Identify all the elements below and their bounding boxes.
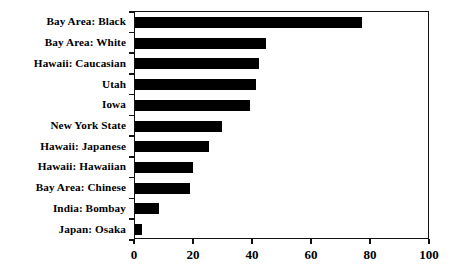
y-axis-tick bbox=[129, 198, 134, 200]
x-axis-tick bbox=[428, 239, 430, 244]
bar bbox=[135, 203, 159, 214]
x-axis-tick bbox=[133, 239, 135, 244]
bar bbox=[135, 141, 209, 152]
x-axis-tick bbox=[310, 239, 312, 244]
y-axis-tick bbox=[129, 94, 134, 96]
bar bbox=[135, 17, 362, 28]
bars-layer bbox=[135, 12, 428, 238]
bar bbox=[135, 38, 266, 49]
x-axis-tick bbox=[251, 239, 253, 244]
category-label: Hawaii: Japanese bbox=[40, 140, 126, 152]
y-axis-tick bbox=[129, 32, 134, 34]
bar bbox=[135, 79, 256, 90]
category-label: New York State bbox=[50, 119, 126, 131]
x-axis-tick-label: 100 bbox=[419, 247, 439, 263]
y-axis-tick bbox=[129, 73, 134, 75]
bar bbox=[135, 58, 259, 69]
y-axis-tick bbox=[129, 11, 134, 13]
bar bbox=[135, 121, 222, 132]
category-label: Utah bbox=[102, 78, 126, 90]
category-label: Bay Area: Black bbox=[46, 15, 126, 27]
category-axis-labels: Bay Area: BlackBay Area: WhiteHawaii: Ca… bbox=[0, 11, 130, 239]
y-axis-tick bbox=[129, 218, 134, 220]
category-label: Bay Area: White bbox=[45, 36, 126, 48]
bar-chart: Bay Area: BlackBay Area: WhiteHawaii: Ca… bbox=[0, 0, 456, 277]
category-label: Iowa bbox=[102, 98, 126, 110]
y-axis-tick bbox=[129, 52, 134, 54]
bar bbox=[135, 224, 142, 235]
y-axis-tick bbox=[129, 177, 134, 179]
bar bbox=[135, 100, 250, 111]
y-axis-tick bbox=[129, 115, 134, 117]
x-axis-tick bbox=[192, 239, 194, 244]
bar bbox=[135, 183, 190, 194]
category-label: India: Bombay bbox=[53, 202, 126, 214]
x-axis-tick-label: 0 bbox=[131, 247, 138, 263]
category-label: Hawaii: Caucasian bbox=[34, 57, 126, 69]
category-label: Hawaii: Hawaiian bbox=[38, 160, 126, 172]
y-axis-tick bbox=[129, 135, 134, 137]
bar bbox=[135, 162, 193, 173]
y-axis-tick bbox=[129, 156, 134, 158]
x-axis-tick bbox=[369, 239, 371, 244]
category-label: Bay Area: Chinese bbox=[36, 181, 126, 193]
x-axis-tick-label: 40 bbox=[246, 247, 259, 263]
x-axis-tick-label: 80 bbox=[364, 247, 377, 263]
x-axis-tick-label: 60 bbox=[305, 247, 318, 263]
plot-area bbox=[134, 11, 429, 239]
x-axis-tick-label: 20 bbox=[187, 247, 200, 263]
category-label: Japan: Osaka bbox=[59, 223, 126, 235]
